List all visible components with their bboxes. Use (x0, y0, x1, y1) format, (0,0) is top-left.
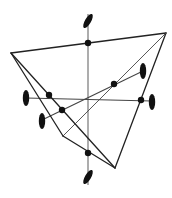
diagonal-axis (42, 71, 143, 120)
marker-right-lower-icon (149, 94, 155, 110)
marker-left-lower-icon (39, 113, 45, 129)
node-top-edge (85, 40, 91, 46)
marker-right-upper-icon (140, 63, 146, 79)
node-right-upper (111, 81, 117, 87)
polyhedron-diagram (0, 0, 172, 198)
edge-left-inner (11, 53, 63, 136)
horizontal-axis (26, 98, 152, 101)
node-right-lower (138, 97, 144, 103)
marker-left-icon (23, 90, 29, 106)
diagram-canvas (0, 0, 172, 198)
node-left-upper (46, 92, 52, 98)
node-left-lower (59, 107, 65, 113)
axes-layer (26, 14, 152, 185)
node-bottom (85, 150, 91, 156)
nodes-layer (46, 40, 144, 156)
